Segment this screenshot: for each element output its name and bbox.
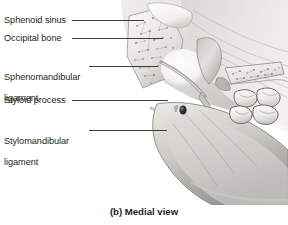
label-sphenomandibular-ligament-line1: Sphenomandibular [4,72,80,82]
tooth-crown-2 [257,88,280,107]
mandibular-foramen-inner [180,106,183,110]
leader-line-sphenomandibular-ligament [89,66,158,67]
leader-line-stylomandibular-ligament [89,130,167,131]
molar-teeth [230,88,280,124]
anatomy-figure: Sphenoid sinus Occipital bone Sphenomand… [0,0,288,225]
tooth-crown-4 [253,105,278,124]
tooth-crown-1 [234,90,257,107]
label-styloid-process: Styloid process [4,95,66,106]
tooth-crown-3 [230,106,252,124]
label-occipital-bone: Occipital bone [4,33,62,44]
leader-line-occipital-bone [72,38,163,39]
label-stylomandibular-ligament-line1: Stylomandibular [4,136,69,146]
figure-caption: (b) Medial view [0,206,288,217]
leader-line-sphenoid-sinus [72,20,144,21]
label-stylomandibular-ligament-line2: ligament [4,157,38,167]
leader-line-styloid-process [72,100,168,101]
medial-view-illustration [121,0,288,205]
label-stylomandibular-ligament: Stylomandibular ligament [4,125,69,167]
label-sphenoid-sinus: Sphenoid sinus [4,15,66,26]
